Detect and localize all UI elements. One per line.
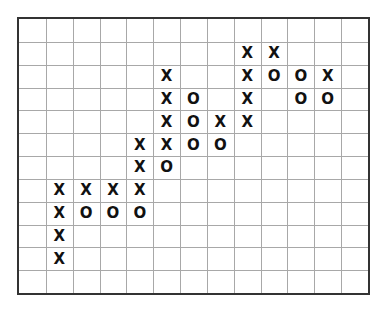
x-mark: X xyxy=(234,110,261,133)
x-mark: X xyxy=(73,179,100,202)
x-mark: X xyxy=(153,88,180,111)
o-mark: O xyxy=(287,65,314,88)
o-mark: O xyxy=(73,202,100,225)
x-mark: X xyxy=(153,110,180,133)
x-mark: X xyxy=(46,225,73,248)
o-mark: O xyxy=(153,156,180,179)
o-mark: O xyxy=(180,110,207,133)
grid-line-horizontal xyxy=(19,42,368,43)
o-mark: O xyxy=(126,202,153,225)
o-mark: O xyxy=(180,133,207,156)
x-mark: X xyxy=(261,42,288,65)
x-mark: X xyxy=(126,179,153,202)
o-mark: O xyxy=(287,88,314,111)
grid-line-horizontal xyxy=(19,156,368,157)
x-mark: X xyxy=(46,247,73,270)
grid-line-horizontal xyxy=(19,270,368,271)
o-mark: O xyxy=(180,88,207,111)
o-mark: O xyxy=(314,88,341,111)
o-mark: O xyxy=(100,202,127,225)
x-mark: X xyxy=(100,179,127,202)
point-and-figure-chart: XXXXOOXXOXOOXOXXXXOOXOXXXXXOOOXX xyxy=(17,17,370,295)
x-mark: X xyxy=(234,88,261,111)
x-mark: X xyxy=(234,65,261,88)
x-mark: X xyxy=(153,133,180,156)
x-mark: X xyxy=(126,133,153,156)
o-mark: O xyxy=(261,65,288,88)
x-mark: X xyxy=(46,202,73,225)
x-mark: X xyxy=(207,110,234,133)
x-mark: X xyxy=(153,65,180,88)
x-mark: X xyxy=(314,65,341,88)
o-mark: O xyxy=(207,133,234,156)
x-mark: X xyxy=(126,156,153,179)
x-mark: X xyxy=(234,42,261,65)
x-mark: X xyxy=(46,179,73,202)
